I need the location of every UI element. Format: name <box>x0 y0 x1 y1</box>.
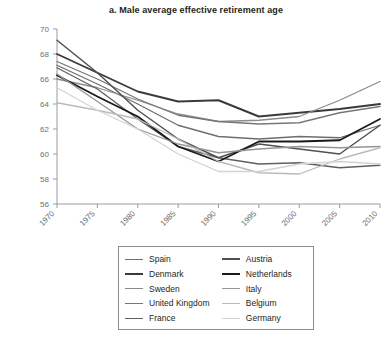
legend-line-swatch <box>125 303 143 304</box>
legend-item-label: United Kingdom <box>149 298 209 308</box>
data-series-group <box>57 40 380 174</box>
x-tick-label: 1995 <box>239 209 258 228</box>
x-tick-label: 2010 <box>360 209 379 228</box>
y-tick-label: 68 <box>40 50 49 59</box>
legend-item-sweden[interactable]: Sweden <box>125 282 222 296</box>
legend-item-italy[interactable]: Italy <box>222 282 307 296</box>
legend-column-1: SpainDenmarkSwedenUnited KingdomFrance <box>125 252 222 325</box>
plot-area: 5658606264666870 19701975198019851990199… <box>0 0 392 250</box>
legend-column-2: AustriaNetherlandsItalyBelgiumGermany <box>222 252 307 325</box>
legend-item-label: Italy <box>246 284 262 294</box>
x-tick-label: 2000 <box>280 209 299 228</box>
legend-line-swatch <box>125 288 143 289</box>
legend-line-swatch <box>222 318 240 319</box>
legend-line-swatch <box>222 303 240 304</box>
legend-item-austria[interactable]: Austria <box>222 252 307 266</box>
x-tick-label: 1975 <box>78 209 97 228</box>
legend-item-netherlands[interactable]: Netherlands <box>222 267 307 281</box>
legend-line-swatch <box>125 273 143 275</box>
legend-item-united-kingdom[interactable]: United Kingdom <box>125 296 222 310</box>
y-tick-label: 64 <box>40 100 49 109</box>
legend-item-label: Germany <box>246 313 281 323</box>
y-axis-ticks: 5658606264666870 <box>40 25 57 209</box>
legend-item-germany[interactable]: Germany <box>222 311 307 325</box>
y-tick-label: 58 <box>40 175 49 184</box>
y-tick-label: 70 <box>40 25 49 34</box>
legend-line-swatch <box>125 318 143 319</box>
x-tick-label: 1980 <box>118 209 137 228</box>
legend-item-label: France <box>149 313 175 323</box>
legend-item-label: Netherlands <box>246 269 292 279</box>
chart-figure: a. Male average effective retirement age… <box>0 0 392 339</box>
y-tick-label: 66 <box>40 75 49 84</box>
y-tick-label: 62 <box>40 125 49 134</box>
legend-line-swatch <box>125 259 143 260</box>
legend-line-swatch <box>222 258 240 260</box>
legend-item-label: Belgium <box>246 298 277 308</box>
x-tick-label: 2005 <box>320 209 339 228</box>
legend-line-swatch <box>222 273 240 275</box>
legend-item-france[interactable]: France <box>125 311 222 325</box>
legend-item-label: Austria <box>246 254 272 264</box>
legend-line-swatch <box>222 288 240 289</box>
legend-item-label: Spain <box>149 254 171 264</box>
legend-item-label: Sweden <box>149 284 180 294</box>
x-axis-ticks: 197019751980198519901995200020052010 <box>37 204 380 228</box>
y-tick-label: 60 <box>40 150 49 159</box>
legend-item-label: Denmark <box>149 269 183 279</box>
x-tick-label: 1985 <box>159 209 178 228</box>
y-tick-label: 56 <box>40 200 49 209</box>
chart-legend: SpainDenmarkSwedenUnited KingdomFranceAu… <box>118 246 314 330</box>
legend-item-belgium[interactable]: Belgium <box>222 296 307 310</box>
x-tick-label: 1970 <box>37 209 56 228</box>
legend-item-spain[interactable]: Spain <box>125 252 222 266</box>
legend-item-denmark[interactable]: Denmark <box>125 267 222 281</box>
x-tick-label: 1990 <box>199 209 218 228</box>
